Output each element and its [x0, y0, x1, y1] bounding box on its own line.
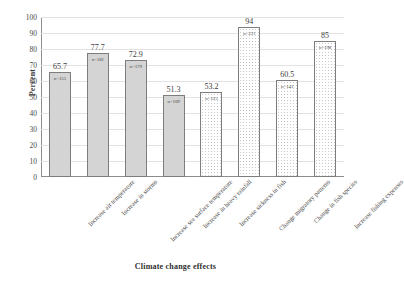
bar-slot: 51.3n=109 [155, 17, 193, 177]
bar-value-label: 85 [321, 31, 329, 40]
bar-value-label: 65.7 [53, 62, 67, 71]
bar[interactable]: 65.7n=151 [49, 72, 71, 177]
bar-value-label: 53.2 [204, 82, 218, 91]
y-tick-label: 80 [30, 45, 38, 54]
y-tick-label: 90 [30, 29, 38, 38]
bar-slot: 65.7n=151 [41, 17, 79, 177]
bar[interactable]: 51.3n=109 [163, 95, 185, 177]
bar[interactable]: 72.9n=179 [125, 60, 147, 177]
bar[interactable]: 53.2n=125 [200, 92, 222, 177]
bar-value-label: 51.3 [167, 85, 181, 94]
y-tick-label: 10 [30, 157, 38, 166]
bar-slot: 60.5n=141 [268, 17, 306, 177]
y-tick-label: 50 [30, 93, 38, 102]
bar-sample-size-label: n=221 [243, 31, 255, 36]
bar-value-label: 77.7 [91, 43, 105, 52]
bars-group: 65.7n=15177.7n=18172.9n=17951.3n=10953.2… [41, 17, 344, 177]
x-axis-title: Climate change effects [0, 262, 351, 271]
bar-sample-size-label: n=198 [319, 45, 331, 50]
bar-sample-size-label: n=109 [167, 99, 179, 104]
bar-sample-size-label: n=179 [130, 64, 142, 69]
x-axis-category-labels: Increase air temperatureIncrease in stor… [41, 178, 344, 256]
bar[interactable]: 77.7n=181 [87, 53, 109, 177]
bar-slot: 72.9n=179 [117, 17, 155, 177]
y-tick-label: 30 [30, 125, 38, 134]
bar-slot: 85n=198 [306, 17, 344, 177]
y-tick-label: 40 [30, 109, 38, 118]
y-tick-label: 60 [30, 77, 38, 86]
x-category-label: Change migratory patterns [278, 178, 332, 232]
bar[interactable]: 60.5n=141 [276, 80, 298, 177]
bar-value-label: 72.9 [129, 50, 143, 59]
bar-sample-size-label: n=141 [281, 84, 293, 89]
y-tick-label: 0 [33, 173, 37, 182]
x-category-label: Increase fishing expenses [353, 178, 404, 230]
y-tick-label: 100 [26, 13, 37, 22]
bar-value-label: 60.5 [280, 70, 294, 79]
bar[interactable]: 85n=198 [314, 41, 336, 177]
plot-area: 1009080706050403020100 65.7n=15177.7n=18… [41, 17, 344, 177]
bar-value-label: 94 [245, 17, 253, 26]
bar-slot: 94n=221 [230, 17, 268, 177]
bar-sample-size-label: n=125 [205, 96, 217, 101]
bar-slot: 77.7n=181 [79, 17, 117, 177]
bar-sample-size-label: n=181 [92, 57, 104, 62]
y-tick-label: 20 [30, 141, 38, 150]
bar-slot: 53.2n=125 [193, 17, 231, 177]
bar-sample-size-label: n=151 [54, 76, 66, 81]
y-tick-label: 70 [30, 61, 38, 70]
bar[interactable]: 94n=221 [238, 27, 260, 177]
